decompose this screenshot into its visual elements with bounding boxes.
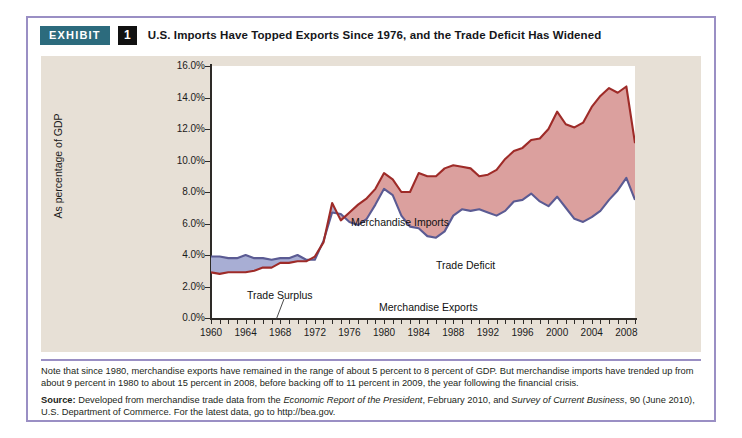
source-publication-2: Survey of Current Business xyxy=(511,395,624,405)
note-text: Note that since 1980, merchandise export… xyxy=(41,365,701,390)
x-tick-label: 1968 xyxy=(269,327,291,338)
x-tick-mark xyxy=(349,319,350,324)
x-tick-mark xyxy=(436,319,437,324)
x-axis-line xyxy=(210,318,637,320)
x-tick-mark xyxy=(401,319,402,324)
y-tick-label: 12.0% xyxy=(159,123,205,134)
note-divider xyxy=(41,359,701,361)
x-tick-mark xyxy=(211,319,212,324)
x-tick-label: 1960 xyxy=(200,327,222,338)
chart-annotation: Trade Surplus xyxy=(247,289,313,301)
x-tick-mark xyxy=(479,319,480,324)
x-tick-mark xyxy=(548,319,549,324)
y-tick-label: 4.0% xyxy=(159,249,205,260)
x-tick-mark xyxy=(592,319,593,324)
x-tick-label: 1972 xyxy=(304,327,326,338)
y-tick-label: 14.0% xyxy=(159,92,205,103)
x-tick-mark xyxy=(306,319,307,324)
x-tick-mark xyxy=(254,319,255,324)
y-axis-tick-labels: 0.0%2.0%4.0%6.0%8.0%10.0%12.0%14.0%16.0% xyxy=(151,66,205,318)
x-tick-label: 1988 xyxy=(442,327,464,338)
x-tick-mark xyxy=(609,319,610,324)
x-tick-mark xyxy=(315,319,316,324)
x-tick-mark xyxy=(272,319,273,324)
x-tick-mark xyxy=(367,319,368,324)
x-tick-mark xyxy=(583,319,584,324)
x-tick-mark xyxy=(540,319,541,324)
x-tick-mark xyxy=(263,319,264,324)
source-part2: , February 2010, and xyxy=(422,395,511,405)
x-tick-label: 1980 xyxy=(373,327,395,338)
x-tick-label: 2008 xyxy=(615,327,637,338)
x-tick-mark xyxy=(618,319,619,324)
exhibit-number-badge: 1 xyxy=(118,26,137,45)
exhibit-header: EXHIBIT 1 U.S. Imports Have Topped Expor… xyxy=(28,18,714,52)
x-tick-mark xyxy=(445,319,446,324)
x-tick-mark xyxy=(298,319,299,324)
y-tick-label: 2.0% xyxy=(159,281,205,292)
x-tick-mark xyxy=(341,319,342,324)
exhibit-frame: EXHIBIT 1 U.S. Imports Have Topped Expor… xyxy=(26,16,716,422)
x-tick-label: 1984 xyxy=(408,327,430,338)
x-tick-mark xyxy=(280,319,281,324)
x-tick-mark xyxy=(505,319,506,324)
x-tick-mark xyxy=(600,319,601,324)
x-tick-mark xyxy=(626,319,627,324)
y-axis-title: As percentage of GDP xyxy=(52,86,64,246)
x-tick-mark xyxy=(332,319,333,324)
chart-annotation: Merchandise Exports xyxy=(379,301,478,313)
x-tick-label: 2000 xyxy=(546,327,568,338)
chart-annotation: Trade Deficit xyxy=(436,259,495,271)
x-tick-label: 1996 xyxy=(511,327,533,338)
x-tick-mark xyxy=(523,319,524,324)
source-text: Source: Developed from merchandise trade… xyxy=(41,394,701,419)
x-tick-mark xyxy=(384,319,385,324)
x-tick-mark xyxy=(488,319,489,324)
x-tick-mark xyxy=(635,319,636,324)
x-tick-mark xyxy=(220,319,221,324)
x-tick-mark xyxy=(323,319,324,324)
x-tick-mark xyxy=(557,319,558,324)
x-tick-mark xyxy=(358,319,359,324)
chart-panel: As percentage of GDP 0.0%2.0%4.0%6.0%8.0… xyxy=(41,56,701,352)
y-tick-label: 8.0% xyxy=(159,186,205,197)
exhibit-title: U.S. Imports Have Topped Exports Since 1… xyxy=(148,29,602,41)
x-tick-mark xyxy=(462,319,463,324)
x-tick-mark xyxy=(514,319,515,324)
x-tick-mark xyxy=(453,319,454,324)
x-tick-mark xyxy=(497,319,498,324)
x-tick-mark xyxy=(410,319,411,324)
exhibit-badge: EXHIBIT xyxy=(40,26,110,45)
x-tick-mark xyxy=(237,319,238,324)
y-tick-label: 0.0% xyxy=(159,312,205,323)
x-tick-label: 1964 xyxy=(234,327,256,338)
x-tick-mark xyxy=(427,319,428,324)
x-tick-mark xyxy=(419,319,420,324)
source-label: Source: xyxy=(41,395,76,405)
x-tick-mark xyxy=(393,319,394,324)
x-tick-mark xyxy=(471,319,472,324)
chart-annotation: Merchandise Imports xyxy=(351,216,449,228)
x-tick-mark xyxy=(246,319,247,324)
chart-plot xyxy=(211,66,635,318)
source-part1: Developed from merchandise trade data fr… xyxy=(76,395,284,405)
x-tick-mark xyxy=(566,319,567,324)
x-tick-mark xyxy=(289,319,290,324)
source-publication-1: Economic Report of the President xyxy=(283,395,422,405)
y-tick-label: 16.0% xyxy=(159,60,205,71)
y-tick-label: 6.0% xyxy=(159,218,205,229)
x-tick-label: 2004 xyxy=(581,327,603,338)
x-tick-mark xyxy=(574,319,575,324)
y-tick-label: 10.0% xyxy=(159,155,205,166)
x-tick-mark xyxy=(531,319,532,324)
x-tick-mark xyxy=(375,319,376,324)
x-tick-label: 1992 xyxy=(477,327,499,338)
x-tick-label: 1976 xyxy=(338,327,360,338)
x-tick-mark xyxy=(228,319,229,324)
notes-area: Note that since 1980, merchandise export… xyxy=(41,359,701,419)
